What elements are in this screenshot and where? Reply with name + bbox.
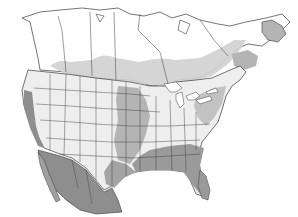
range-map bbox=[0, 0, 298, 217]
map-svg bbox=[0, 0, 298, 217]
